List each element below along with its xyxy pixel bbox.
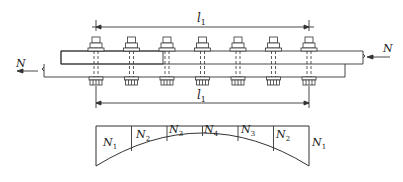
top-dimension-arrow-right [304,25,309,29]
right-force-arrowhead [367,55,373,59]
distribution-label-7: N1 [311,136,326,151]
distribution-label-4: N4 [203,123,219,138]
distribution-label-5: N3 [240,123,255,138]
lower-plate-outline [44,64,345,77]
bolted-joint-diagram: l1 l1 N N N1 N2 N3 N4 N3 N2 N1 [0,0,403,182]
bolt-5 [230,37,246,85]
upper-plate-outline [61,51,363,64]
bolt-2 [124,37,140,85]
upper-plate-left-part [61,51,163,64]
bolt-6 [266,37,282,85]
right-force-label: N [382,42,393,55]
top-dimension-label: l1 [197,11,206,27]
bolt-3 [159,37,175,85]
distribution-label-1: N1 [102,136,117,151]
distribution-label-6: N2 [275,128,290,143]
bottom-dimension-arrow-right [304,101,309,105]
distribution-label-2: N2 [135,128,150,143]
bolt-1 [88,37,104,85]
distribution-label-3: N3 [168,123,183,138]
top-dimension-arrow-left [96,25,101,29]
left-force-label: N [15,57,26,70]
bottom-dimension-label: l1 [197,88,206,104]
bolt-7 [301,37,317,85]
bolt-4 [195,37,211,85]
bottom-dimension-arrow-left [96,101,101,105]
